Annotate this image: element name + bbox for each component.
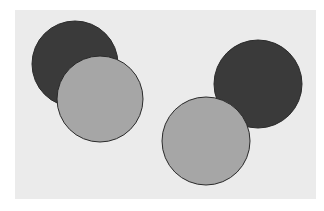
light-circle-bottom-center (162, 97, 250, 185)
circles-diagram (0, 0, 324, 211)
light-circle-left (57, 56, 143, 142)
